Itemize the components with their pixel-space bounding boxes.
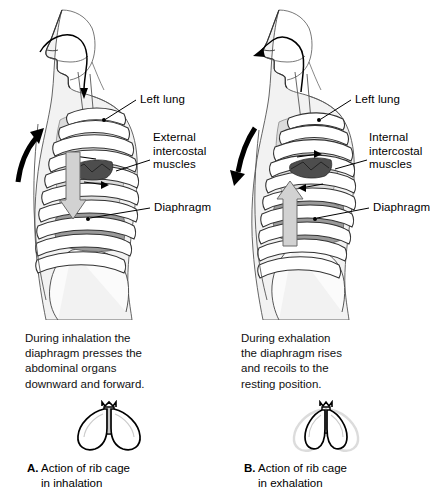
figure-letter-b: B. bbox=[244, 462, 256, 474]
inhalation-labels: Left lung External intercostal muscles D… bbox=[0, 0, 217, 320]
figure-caption-a-line2: in inhalation bbox=[27, 476, 212, 491]
figure-caption-b: B. Action of rib cage in exhalation bbox=[244, 461, 429, 490]
figure-caption-b-line2: in exhalation bbox=[244, 476, 429, 491]
respiration-diagram: Left lung External intercostal muscles D… bbox=[0, 0, 434, 495]
figure-letter-a: A. bbox=[27, 462, 39, 474]
panel-inhalation: Left lung External intercostal muscles D… bbox=[0, 0, 217, 495]
label-left-lung: Left lung bbox=[140, 93, 185, 107]
label-diaphragm: Diaphragm bbox=[154, 201, 211, 215]
panel-exhalation: Left lung Internal intercostal muscles D… bbox=[217, 0, 434, 495]
label-intercostal-muscles: Internal intercostal muscles bbox=[369, 131, 423, 172]
label-diaphragm: Diaphragm bbox=[373, 201, 430, 215]
ribcage-icon-exhalation bbox=[217, 400, 434, 462]
ribcage-icon-inhalation bbox=[0, 400, 217, 462]
label-left-lung: Left lung bbox=[355, 93, 400, 107]
exhalation-labels: Left lung Internal intercostal muscles D… bbox=[217, 0, 434, 320]
figure-caption-a-line1: Action of rib cage bbox=[41, 462, 130, 474]
inhalation-caption: During inhalation the diaphragm presses … bbox=[25, 331, 205, 392]
exhalation-caption: During exhalation the diaphragm rises an… bbox=[241, 331, 421, 392]
label-intercostal-muscles: External intercostal muscles bbox=[153, 131, 207, 172]
figure-caption-a: A. Action of rib cage in inhalation bbox=[27, 461, 212, 490]
figure-caption-b-line1: Action of rib cage bbox=[258, 462, 347, 474]
